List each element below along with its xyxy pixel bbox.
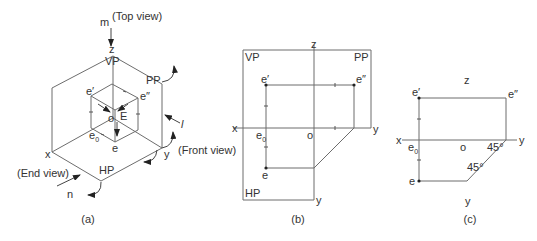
label-pp: PP — [354, 51, 369, 63]
label-angle-45-upper: 45° — [487, 141, 504, 153]
label-z: z — [311, 38, 317, 50]
label-o: o — [108, 112, 114, 124]
hp-rotation-arrow-bottom — [88, 182, 101, 195]
caption-b: (b) — [291, 213, 304, 225]
label-e0: e0 — [89, 129, 99, 143]
label-hp: HP — [99, 164, 114, 176]
label-top-view: (Top view) — [112, 10, 162, 22]
label-e-prime: e′ — [412, 86, 420, 98]
label-o: o — [460, 141, 466, 153]
label-y-right: y — [519, 134, 525, 146]
label-e-dprime: e″ — [356, 73, 366, 85]
label-n: n — [67, 188, 73, 200]
label-e0: e0 — [408, 141, 418, 155]
label-pp: PP — [146, 74, 161, 86]
label-l: l — [181, 118, 184, 130]
label-x: x — [396, 134, 402, 146]
label-x: x — [45, 148, 51, 160]
arrow-to-e-prime — [98, 104, 110, 112]
point-dots — [264, 83, 355, 169]
label-e-prime: e′ — [261, 73, 269, 85]
label-x: x — [232, 122, 238, 134]
front-view-arrow-l — [165, 115, 180, 123]
label-y-bottom: y — [316, 194, 322, 206]
label-o: o — [307, 129, 313, 141]
label-hp: HP — [245, 187, 260, 199]
label-e: e — [112, 142, 118, 154]
label-z: z — [109, 43, 115, 55]
label-vp: VP — [245, 51, 260, 63]
figure-c-projection: z e′ e″ x e0 o 45° y 45° e y (c) — [396, 74, 525, 225]
label-y: y — [164, 148, 170, 160]
label-m: m — [100, 16, 109, 28]
label-e-prime: e′ — [86, 85, 94, 97]
label-E: E — [120, 110, 127, 122]
label-vp: VP — [105, 55, 120, 67]
label-z: z — [464, 74, 470, 86]
label-front-view: (Front view) — [178, 144, 236, 156]
label-y-bottom: y — [465, 195, 471, 207]
figure-b-unfolded-planes: z VP PP e′ e″ x e0 o y e HP y (b) — [232, 38, 379, 225]
label-end-view: (End view) — [17, 167, 69, 179]
caption-a: (a) — [81, 213, 94, 225]
label-e-dprime: e″ — [140, 90, 150, 102]
label-y-right: y — [373, 123, 379, 135]
caption-c: (c) — [464, 213, 477, 225]
y-rotation-arrow — [162, 132, 173, 148]
transfer-diagonal — [314, 128, 354, 168]
tick-marks — [264, 83, 335, 147]
label-e: e — [262, 169, 268, 181]
label-e-dprime: e″ — [508, 88, 518, 100]
orthographic-projection-diagram: m (Top view) z VP PP e′ e″ E o e0 e l (F… — [0, 0, 537, 241]
label-e0: e0 — [256, 129, 266, 143]
figure-a-isometric: m (Top view) z VP PP e′ e″ E o e0 e l (F… — [17, 10, 236, 225]
label-angle-45-lower: 45° — [467, 161, 484, 173]
cube-edge — [115, 98, 138, 110]
plane-boundaries — [233, 50, 371, 200]
label-e: e — [409, 175, 415, 187]
pp-rotation-arrow — [162, 66, 174, 82]
